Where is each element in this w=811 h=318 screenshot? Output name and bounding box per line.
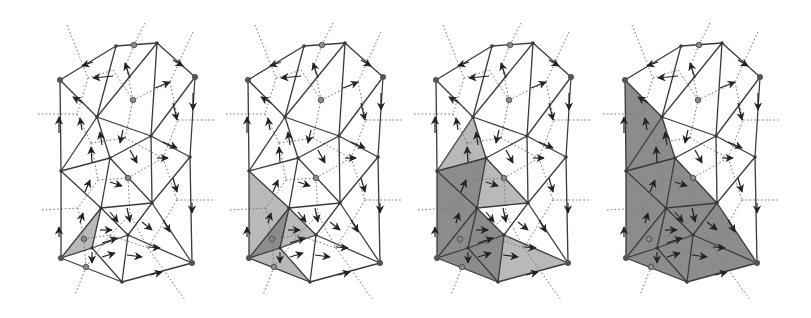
mesh-vertex xyxy=(308,280,312,284)
dual-node-marker xyxy=(318,97,324,103)
dual-edge-dashed xyxy=(134,23,145,45)
mesh-edge xyxy=(340,157,378,203)
mesh-edge xyxy=(717,157,755,203)
flow-arrow-icon xyxy=(313,63,318,78)
flow-arrow-icon xyxy=(658,76,678,78)
mesh-vertex xyxy=(338,201,342,205)
mesh-edge xyxy=(662,46,681,117)
flow-arrow-icon xyxy=(690,63,695,78)
mesh-edge xyxy=(60,80,61,171)
flow-arrow-icon xyxy=(496,130,499,143)
mesh-vertex xyxy=(565,260,571,266)
flow-arrow-icon xyxy=(738,60,748,66)
dual-edge-dashed xyxy=(263,267,274,295)
dual-node-marker xyxy=(83,264,89,270)
dual-edge-dashed xyxy=(539,158,553,200)
flow-arrow-icon xyxy=(318,150,325,163)
dual-edge-dashed xyxy=(163,158,177,200)
flow-arrow-icon xyxy=(720,82,735,88)
mesh-edge xyxy=(345,43,383,77)
dual-node-marker xyxy=(696,42,702,48)
mesh-edge xyxy=(97,117,110,158)
mesh-vertex xyxy=(57,77,63,83)
mesh-vertex xyxy=(715,201,719,205)
dual-edge-dashed xyxy=(128,158,163,178)
mesh-vertex xyxy=(490,44,494,48)
figure-canvas xyxy=(0,0,811,318)
mesh-edge xyxy=(110,136,151,158)
dual-edge-dashed xyxy=(75,267,86,295)
dual-edge-dashed xyxy=(539,120,554,158)
mesh-vertex xyxy=(192,74,198,80)
mesh-vertex xyxy=(114,44,118,48)
flow-arrow-icon xyxy=(93,76,113,78)
mesh-vertex xyxy=(90,246,94,250)
dual-edge-dashed xyxy=(693,158,728,178)
dual-node-marker xyxy=(690,175,696,181)
panel-step-2 xyxy=(226,23,403,300)
flow-arrow-icon xyxy=(163,142,177,148)
mesh-edge xyxy=(716,43,722,136)
mesh-edge xyxy=(504,203,528,235)
mesh-vertex xyxy=(685,280,689,284)
dual-edge-dashed xyxy=(316,178,318,215)
flow-arrow-icon xyxy=(110,182,122,186)
flow-arrow-icon xyxy=(91,147,92,162)
mesh-vertex xyxy=(720,41,724,45)
flow-arrow-icon xyxy=(120,130,123,143)
mesh-edge xyxy=(533,43,571,77)
flow-arrow-icon xyxy=(130,150,137,163)
dual-edge-dashed xyxy=(314,45,322,65)
mesh-edge xyxy=(716,136,717,203)
flow-arrow-icon xyxy=(695,150,702,163)
mesh-vertex xyxy=(434,255,440,261)
mesh-vertex xyxy=(247,169,251,173)
dual-edge-dashed xyxy=(453,78,464,114)
flow-arrow-icon xyxy=(127,255,142,257)
dual-node-marker xyxy=(459,264,465,270)
mesh-edge xyxy=(157,43,195,77)
dual-node-marker xyxy=(130,97,136,103)
flow-arrow-icon xyxy=(268,118,270,130)
flow-arrow-icon xyxy=(539,220,546,232)
mesh-vertex xyxy=(296,156,300,160)
mesh-vertex xyxy=(660,115,664,119)
mesh-edge xyxy=(285,117,298,158)
flow-arrow-icon xyxy=(361,178,365,192)
mesh-vertex xyxy=(95,115,99,119)
mesh-vertex xyxy=(314,233,318,237)
mesh-edge xyxy=(289,203,340,208)
mesh-edge xyxy=(662,43,722,117)
mesh-vertex xyxy=(120,280,124,284)
mesh-edge xyxy=(473,43,533,117)
mesh-vertex xyxy=(664,206,668,210)
mesh-edge xyxy=(92,248,122,282)
dual-edge-dashed xyxy=(351,120,366,158)
flow-arrow-icon xyxy=(469,76,489,78)
mesh-vertex xyxy=(525,134,529,138)
mesh-edge xyxy=(60,80,97,117)
flow-arrow-icon xyxy=(728,142,742,148)
mesh-vertex xyxy=(433,77,439,83)
triangulation-flow-figure xyxy=(0,0,811,318)
panel-step-1 xyxy=(38,23,215,300)
mesh-edge xyxy=(662,117,716,136)
mesh-vertex xyxy=(283,115,287,119)
mesh-edge xyxy=(285,117,339,136)
flow-arrow-icon xyxy=(125,63,130,78)
mesh-edge xyxy=(248,80,249,171)
flow-arrow-icon xyxy=(518,222,528,230)
flow-arrow-icon xyxy=(290,253,303,257)
mesh-edge xyxy=(310,263,380,282)
dual-node-marker xyxy=(271,264,277,270)
flow-arrow-icon xyxy=(173,178,177,192)
dual-node-marker xyxy=(648,264,654,270)
dual-node-marker xyxy=(319,42,325,48)
mesh-vertex xyxy=(691,233,695,237)
mesh-vertex xyxy=(287,206,291,210)
mesh-vertex xyxy=(623,255,629,261)
mesh-vertex xyxy=(568,74,574,80)
dual-edge-dashed xyxy=(690,100,698,138)
mesh-vertex xyxy=(622,77,628,83)
dual-edge-dashed xyxy=(451,267,462,295)
